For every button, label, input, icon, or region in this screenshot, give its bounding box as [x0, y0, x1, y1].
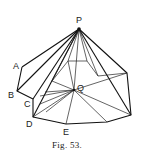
- label-c: C: [24, 99, 31, 109]
- vertex-p: [77, 27, 81, 31]
- line-q-inner: [52, 81, 74, 90]
- line-q-d: [33, 90, 74, 117]
- polyhedron-diagram: P Q A B C D E Fig. 53.: [0, 0, 141, 155]
- vertex-q: [73, 89, 75, 91]
- line-p-inner3: [52, 29, 79, 81]
- line-q-base: [74, 90, 107, 122]
- edge-c-slope: [33, 29, 79, 99]
- label-q: Q: [77, 83, 84, 93]
- line-p-inner4: [79, 29, 98, 76]
- inner-ring: [52, 61, 127, 81]
- label-d: D: [26, 119, 33, 129]
- line-q-br: [74, 90, 131, 115]
- edge-b-slope: [17, 29, 79, 91]
- figure-caption: Fig. 53.: [52, 140, 82, 150]
- line-q-inner2: [68, 61, 74, 90]
- label-e: E: [63, 127, 69, 137]
- label-b: B: [8, 90, 14, 100]
- label-a: A: [13, 61, 19, 71]
- label-p: P: [76, 15, 82, 25]
